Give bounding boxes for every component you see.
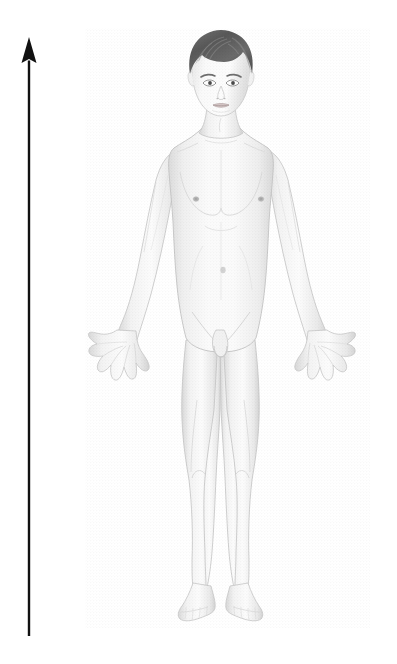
arrow-head-icon [22, 37, 37, 63]
illustration-canvas [0, 0, 397, 664]
height-axis-arrow [0, 0, 397, 664]
